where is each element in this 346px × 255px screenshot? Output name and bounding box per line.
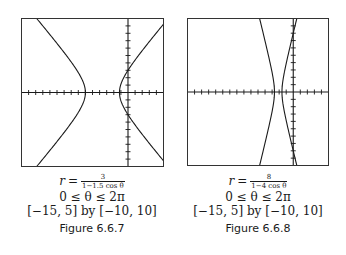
theta-range: 0 ≤ θ ≤ 2π [173,190,343,204]
denominator: 1−4 cos θ [250,181,287,190]
plot-figure-6-6-8 [187,18,329,166]
equals-sign: = [237,174,247,188]
polar-equation: r = 8 1−4 cos θ [173,172,343,190]
hyperbola-graph-right [187,18,329,166]
polar-equation: r = 3 1−1.5 cos θ [7,172,177,190]
theta-range: 0 ≤ θ ≤ 2π [7,190,177,204]
numerator: 8 [266,173,272,181]
numerator: 3 [100,173,106,181]
figure-label: Figure 6.6.7 [7,222,177,236]
plot-figure-6-6-7 [21,18,164,167]
denominator: 1−1.5 cos θ [81,181,125,190]
caption-figure-6-6-8: r = 8 1−4 cos θ 0 ≤ θ ≤ 2π [−15, 5] by [… [173,172,343,236]
caption-figure-6-6-7: r = 3 1−1.5 cos θ 0 ≤ θ ≤ 2π [−15, 5] by… [7,172,177,236]
axis-ticks [188,19,329,166]
fraction: 8 1−4 cos θ [250,173,287,190]
equation-lhs: r [59,174,65,188]
equation-lhs: r [229,174,235,188]
hyperbola-graph-left [21,18,164,167]
fraction: 3 1−1.5 cos θ [81,173,125,190]
viewing-window: [−15, 5] by [−10, 10] [173,204,343,218]
figure-label: Figure 6.6.8 [173,222,343,236]
axis-ticks [22,19,164,167]
equals-sign: = [68,174,78,188]
viewing-window: [−15, 5] by [−10, 10] [7,204,177,218]
